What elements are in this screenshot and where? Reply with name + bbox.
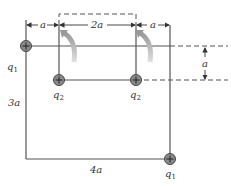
dim-label-right-a: a: [150, 19, 156, 30]
charge-diagram: q1 q2 q2 q1 a 2a a a 3a 4a: [0, 0, 231, 188]
label-q1-bottom: q1: [165, 168, 176, 181]
charge-q2-right: [131, 75, 142, 86]
dim-label-4a: 4a: [89, 164, 102, 175]
label-q2-right: q2: [130, 89, 141, 102]
rotation-arrow-left-icon: [64, 33, 75, 62]
charge-q1-top-left: [21, 41, 32, 52]
label-q2-left: q2: [53, 89, 64, 102]
dim-label-2a: 2a: [90, 19, 103, 30]
rotation-arrow-right-icon: [140, 33, 151, 62]
dim-label-vertical-a: a: [202, 58, 208, 69]
dim-label-left-a: a: [40, 19, 46, 30]
charge-q2-left: [54, 75, 65, 86]
charge-q1-bottom-right: [165, 154, 176, 165]
label-q1-top: q1: [7, 61, 18, 74]
dimension-lines: [27, 25, 205, 79]
dim-label-3a: 3a: [8, 97, 20, 108]
dashed-guides: [59, 14, 228, 80]
